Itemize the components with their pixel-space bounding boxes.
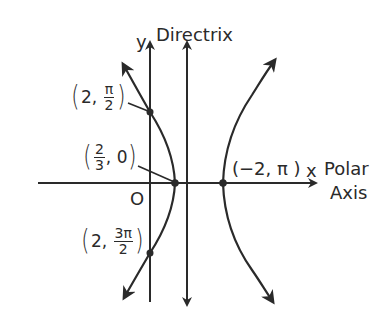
polar-axis-label-line2: Axis bbox=[330, 184, 367, 202]
label-point-2-pi-over-2: (2, π2) bbox=[70, 82, 126, 112]
x-axis-label: x bbox=[306, 162, 317, 180]
y-axis-label: y bbox=[136, 33, 147, 51]
point-2-pi-over-2 bbox=[147, 109, 154, 116]
label-point-2-3pi-over-2: (2, 3π2) bbox=[80, 226, 145, 256]
label-point-vertex: (23, 0) bbox=[82, 142, 138, 172]
point-minus2-pi bbox=[219, 179, 227, 187]
hyperbola-right-branch-lower bbox=[223, 183, 273, 302]
polar-axis-label-line1: Polar bbox=[324, 160, 369, 178]
point-2-3pi-over-2 bbox=[147, 250, 154, 257]
label-point-minus2-pi: (−2, π ) bbox=[232, 160, 301, 178]
leader-line-vertex bbox=[138, 166, 172, 181]
point-vertex-2-3-0 bbox=[171, 179, 179, 187]
origin-label: O bbox=[130, 190, 144, 208]
directrix-label: Directrix bbox=[156, 26, 233, 44]
